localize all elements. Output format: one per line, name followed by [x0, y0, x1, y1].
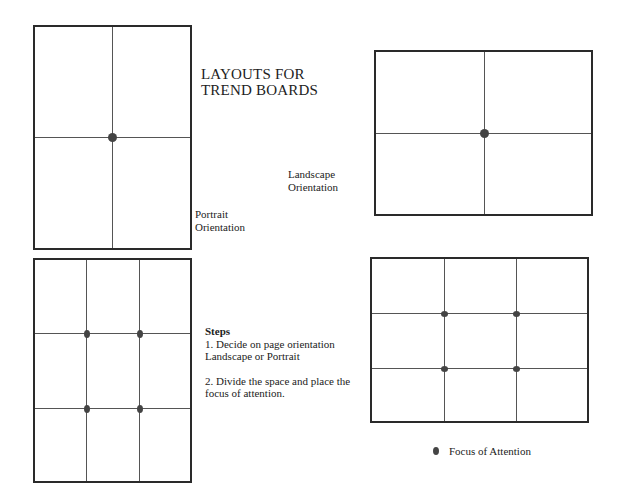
focus-dot-icon — [84, 405, 90, 413]
landscape-orientation-label: Landscape Orientation — [288, 168, 338, 193]
legend: Focus of Attention — [433, 445, 531, 457]
focus-dot-icon — [433, 447, 439, 455]
focus-dot-icon — [137, 405, 143, 413]
page-title: LAYOUTS FOR TREND BOARDS — [201, 66, 318, 98]
title-line-2: TREND BOARDS — [201, 82, 318, 98]
steps-heading: Steps — [205, 325, 350, 338]
legend-label: Focus of Attention — [449, 445, 531, 457]
landscape-label-line-1: Landscape — [288, 168, 338, 181]
horizontal-divider-1 — [372, 313, 587, 314]
focus-dot-icon — [108, 133, 117, 142]
vertical-divider-1 — [444, 259, 445, 421]
portrait-thirds-board — [33, 258, 192, 483]
focus-dot-icon — [513, 366, 520, 372]
focus-dot-icon — [441, 311, 448, 317]
vertical-divider-1 — [86, 260, 87, 481]
step-1-line-2: Landscape or Portrait — [205, 350, 350, 363]
portrait-label-line-1: Portrait — [195, 208, 245, 221]
focus-dot-icon — [137, 330, 143, 338]
vertical-divider-2 — [516, 259, 517, 421]
focus-dot-icon — [480, 129, 489, 138]
focus-dot-icon — [513, 311, 520, 317]
horizontal-divider-2 — [35, 408, 190, 409]
portrait-orientation-label: Portrait Orientation — [195, 208, 245, 233]
title-line-1: LAYOUTS FOR — [201, 66, 318, 82]
portrait-label-line-2: Orientation — [195, 221, 245, 234]
steps-instructions: Steps 1. Decide on page orientation Land… — [205, 325, 350, 400]
landscape-thirds-board — [370, 257, 589, 423]
horizontal-divider-2 — [372, 368, 587, 369]
step-2-line-2: focus of attention. — [205, 387, 350, 400]
step-1-line-1: 1. Decide on page orientation — [205, 338, 350, 351]
landscape-label-line-2: Orientation — [288, 181, 338, 194]
step-2-line-1: 2. Divide the space and place the — [205, 375, 350, 388]
focus-dot-icon — [84, 330, 90, 338]
portrait-halves-board — [33, 25, 192, 250]
landscape-halves-board — [374, 50, 593, 216]
focus-dot-icon — [441, 366, 448, 372]
vertical-divider-2 — [139, 260, 140, 481]
horizontal-divider-1 — [35, 333, 190, 334]
